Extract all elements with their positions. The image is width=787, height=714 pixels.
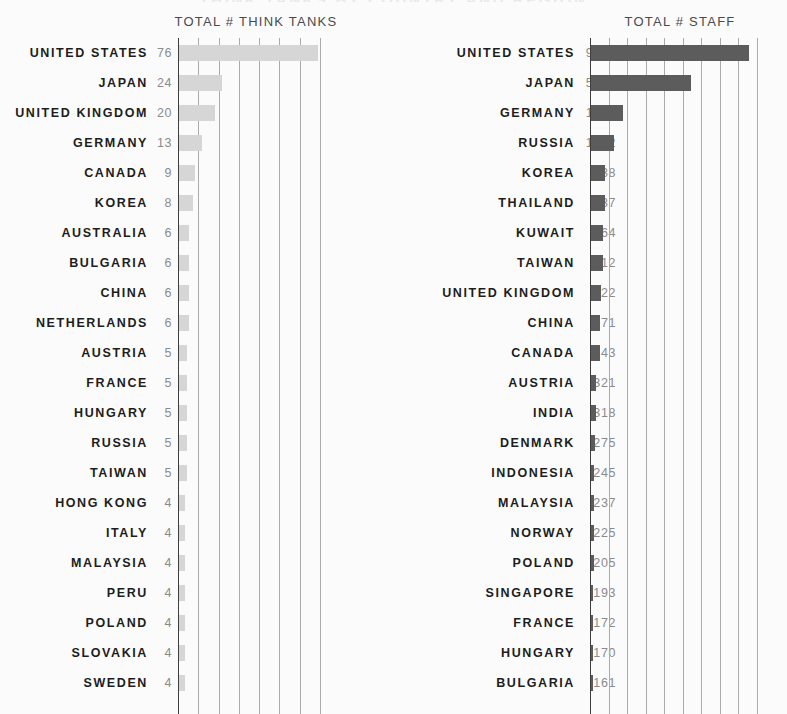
country-value: 4	[150, 578, 172, 608]
bar-track	[590, 218, 775, 248]
bar	[178, 165, 195, 181]
bar-track	[178, 158, 340, 188]
country-label: CHINA	[0, 278, 148, 308]
country-label: UNITED KINGDOM	[0, 98, 148, 128]
bar	[178, 75, 222, 91]
bar-track	[590, 668, 775, 698]
country-label: CANADA	[0, 158, 148, 188]
country-label: AUSTRALIA	[0, 218, 148, 248]
bar-track	[590, 158, 775, 188]
plot-area-think-tanks	[178, 38, 340, 714]
bar-track	[178, 458, 340, 488]
axis-line-think-tanks	[178, 38, 179, 714]
bar-track	[590, 638, 775, 668]
country-label: FRANCE	[390, 608, 575, 638]
country-value: 6	[150, 248, 172, 278]
bar-track	[178, 548, 340, 578]
bar	[178, 105, 215, 121]
country-value: 6	[150, 218, 172, 248]
country-value: 5	[150, 458, 172, 488]
country-value: 4	[150, 638, 172, 668]
country-label: TAIWAN	[0, 458, 148, 488]
country-value: 8	[150, 188, 172, 218]
bar	[178, 315, 189, 331]
bar-track	[178, 488, 340, 518]
bar-track	[178, 608, 340, 638]
bar-track	[178, 308, 340, 338]
plot-area-staff	[590, 38, 775, 714]
country-label: KOREA	[0, 188, 148, 218]
chart-panel-staff: TOTAL # STAFF UNITED STATES9032JAPAN5709…	[390, 0, 787, 714]
bar-track	[590, 608, 775, 638]
country-label: SINGAPORE	[390, 578, 575, 608]
bar-track	[590, 458, 775, 488]
country-label: AUSTRIA	[0, 338, 148, 368]
country-label: TAIWAN	[390, 248, 575, 278]
bar-track	[590, 338, 775, 368]
country-value: 5	[150, 398, 172, 428]
bar-track	[590, 38, 775, 68]
country-value: 4	[150, 488, 172, 518]
bar	[590, 315, 600, 331]
country-label: SLOVAKIA	[0, 638, 148, 668]
country-label: PERU	[0, 578, 148, 608]
bars-think-tanks	[178, 38, 340, 698]
chart-panel-think-tanks: TOTAL # THINK TANKS UNITED STATES76JAPAN…	[0, 0, 390, 714]
country-label: CHINA	[390, 308, 575, 338]
axis-line-staff	[590, 38, 591, 714]
bar	[590, 135, 614, 151]
country-value: 24	[150, 68, 172, 98]
bar	[590, 75, 691, 91]
country-label: DENMARK	[390, 428, 575, 458]
bar-track	[590, 248, 775, 278]
bar-track	[590, 428, 775, 458]
country-value: 13	[150, 128, 172, 158]
country-label: RUSSIA	[390, 128, 575, 158]
country-label: RUSSIA	[0, 428, 148, 458]
country-label: KUWAIT	[390, 218, 575, 248]
country-label: MALAYSIA	[0, 548, 148, 578]
country-label: INDONESIA	[390, 458, 575, 488]
bar-track	[178, 428, 340, 458]
bar-track	[590, 368, 775, 398]
bar-track	[590, 308, 775, 338]
bar-track	[590, 578, 775, 608]
bar	[590, 285, 601, 301]
bar-track	[178, 368, 340, 398]
country-value: 4	[150, 608, 172, 638]
bar	[590, 345, 600, 361]
bar	[590, 225, 603, 241]
bar-track	[590, 188, 775, 218]
bar	[590, 105, 623, 121]
bar	[178, 255, 189, 271]
country-label: UNITED STATES	[0, 38, 148, 68]
bar-track	[590, 278, 775, 308]
bar-track	[178, 218, 340, 248]
country-label: SWEDEN	[0, 668, 148, 698]
country-label: JAPAN	[390, 68, 575, 98]
country-value: 4	[150, 668, 172, 698]
country-value: 6	[150, 278, 172, 308]
bars-staff	[590, 38, 775, 698]
chart-title-staff: TOTAL # STAFF	[624, 14, 735, 29]
chart-page: THINK TANKS BY COUNTRY AND REGION TOTAL …	[0, 0, 787, 714]
country-label: UNITED KINGDOM	[390, 278, 575, 308]
bar-track	[178, 98, 340, 128]
country-value: 5	[150, 368, 172, 398]
country-label: HONG KONG	[0, 488, 148, 518]
chart-title-think-tanks: TOTAL # THINK TANKS	[175, 14, 338, 29]
country-value: 6	[150, 308, 172, 338]
bar-track	[590, 98, 775, 128]
country-label: HUNGARY	[390, 638, 575, 668]
country-label: JAPAN	[0, 68, 148, 98]
country-value: 76	[150, 38, 172, 68]
country-label: MALAYSIA	[390, 488, 575, 518]
bar	[178, 195, 193, 211]
bar	[590, 195, 605, 211]
country-value: 5	[150, 428, 172, 458]
country-label: POLAND	[0, 608, 148, 638]
country-label: NETHERLANDS	[0, 308, 148, 338]
country-label: POLAND	[390, 548, 575, 578]
bar	[590, 165, 605, 181]
country-label: INDIA	[390, 398, 575, 428]
